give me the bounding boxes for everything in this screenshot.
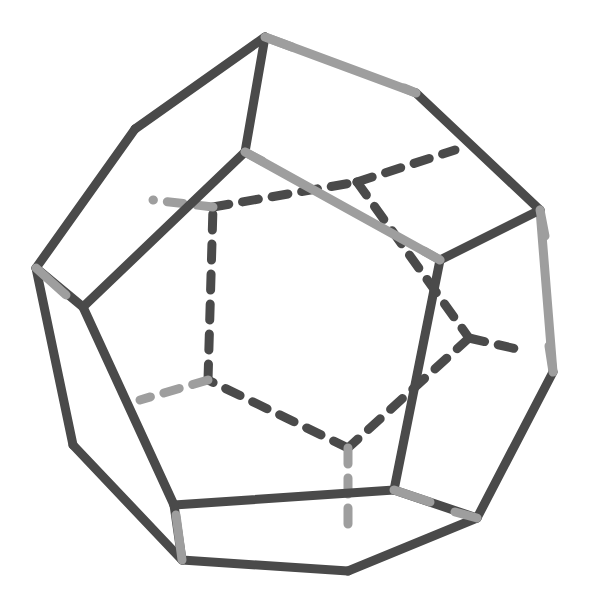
cap-O5 bbox=[455, 512, 477, 518]
dodecahedron-figure bbox=[0, 0, 593, 594]
cap-O3 bbox=[540, 210, 545, 236]
cap-O4 bbox=[549, 346, 553, 372]
cap-O2 bbox=[404, 88, 416, 93]
drawing-canvas bbox=[0, 0, 593, 594]
cap-O7 bbox=[176, 515, 182, 560]
